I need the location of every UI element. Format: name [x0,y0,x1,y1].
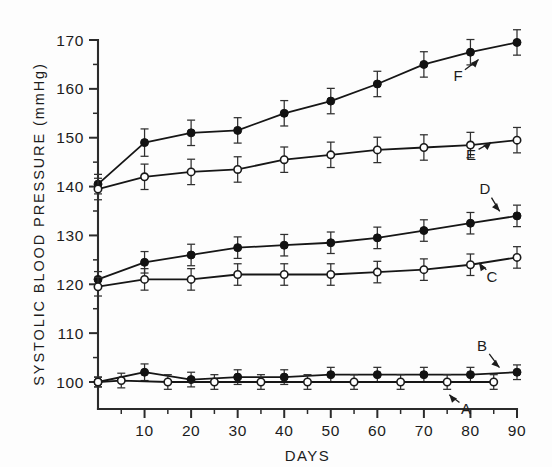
data-point-filled-F [420,60,428,68]
x-tick-label: 30 [228,422,246,439]
x-tick-label: 10 [135,422,153,439]
data-point-open-E [513,136,520,143]
data-point-open-C [513,254,520,261]
data-point-open-A [397,378,404,385]
data-point-filled-D [234,244,242,252]
series-F [94,30,521,194]
data-point-filled-B [466,371,474,379]
curve-annotation-A: A [449,395,471,417]
systolic-blood-pressure-chart: 1001101201301401501601701020304050607080… [0,0,552,467]
curve-label-F: F [453,67,462,84]
data-point-open-C [234,271,241,278]
y-axis-title: SYSTOLIC BLOOD PRESSURE (mmHg) [31,62,47,385]
y-tick-label: 110 [57,325,84,342]
data-point-filled-B [280,373,288,381]
data-point-filled-F [187,129,195,137]
data-point-open-E [141,173,148,180]
data-point-filled-F [513,38,521,46]
y-tick-label: 160 [56,80,84,97]
data-point-filled-D [187,251,195,259]
x-tick-label: 50 [322,422,340,439]
x-tick-label: 90 [508,422,526,439]
series-line-A [98,381,494,382]
y-tick-label: 170 [56,32,84,49]
data-point-open-E [327,151,334,158]
curve-annotation-D: D [480,180,500,211]
data-point-filled-B [420,371,428,379]
curve-annotation-B: B [477,337,499,368]
axes-group: 1001101201301401501601701020304050607080… [56,32,526,440]
data-point-filled-B [234,373,242,381]
y-tick-label: 100 [56,374,84,391]
series-line-F [98,42,517,184]
data-point-open-E [187,168,194,175]
data-point-open-E [234,166,241,173]
curve-annotation-F: F [453,60,478,84]
data-point-open-C [467,261,474,268]
data-point-filled-D [373,234,381,242]
series-E [94,127,521,199]
y-tick-label: 140 [56,178,84,195]
series-line-C [98,257,517,286]
series-line-E [98,140,517,189]
data-point-open-A [164,378,171,385]
annotations-group: FEDCBA [449,60,499,417]
data-point-open-E [281,156,288,163]
annotation-arrowhead [492,203,500,211]
data-point-filled-F [373,80,381,88]
data-point-filled-D [280,241,288,249]
series-line-D [98,216,517,280]
data-point-open-A [304,378,311,385]
x-tick-label: 60 [368,422,386,439]
data-point-open-A [257,378,264,385]
curve-label-D: D [480,180,491,197]
data-point-open-C [327,271,334,278]
data-point-open-A [443,378,450,385]
data-point-open-C [141,276,148,283]
data-point-filled-F [234,126,242,134]
curve-annotation-C: C [479,263,498,285]
data-point-filled-B [141,368,149,376]
x-tick-label: 80 [461,422,479,439]
x-tick-label: 40 [275,422,293,439]
data-point-open-C [94,283,101,290]
data-point-open-E [374,146,381,153]
data-point-filled-D [513,212,521,220]
figure-container: 1001101201301401501601701020304050607080… [0,0,552,467]
data-point-open-A [350,378,357,385]
curve-label-B: B [477,337,487,354]
data-point-filled-D [141,258,149,266]
data-point-open-A [94,378,101,385]
x-tick-label: 70 [415,422,433,439]
annotation-arrowhead [479,263,486,271]
y-tick-label: 150 [56,129,84,146]
curve-annotation-E: E [466,142,491,163]
y-tick-label: 130 [56,227,84,244]
annotation-arrowhead [449,395,457,403]
data-point-open-C [187,276,194,283]
data-point-filled-D [327,239,335,247]
data-point-open-E [94,185,101,192]
curve-label-C: C [487,268,498,285]
data-point-filled-F [466,48,474,56]
data-point-open-C [374,268,381,275]
data-point-open-A [211,378,218,385]
data-point-filled-F [141,139,149,147]
data-point-filled-B [327,371,335,379]
series-C [94,247,521,296]
data-point-open-C [281,271,288,278]
annotation-arrowhead [491,360,499,368]
data-point-filled-B [373,371,381,379]
y-tick-label: 120 [56,276,84,293]
data-point-filled-D [466,219,474,227]
axis-titles-group: DAYSSYSTOLIC BLOOD PRESSURE (mmHg) [31,62,330,464]
curve-label-E: E [466,146,476,163]
data-point-open-C [420,266,427,273]
data-point-filled-D [420,227,428,235]
data-point-filled-B [513,368,521,376]
data-point-filled-F [280,109,288,117]
data-point-open-A [118,377,125,384]
data-point-open-E [420,144,427,151]
data-point-open-A [490,378,497,385]
x-axis-title: DAYS [285,447,331,464]
